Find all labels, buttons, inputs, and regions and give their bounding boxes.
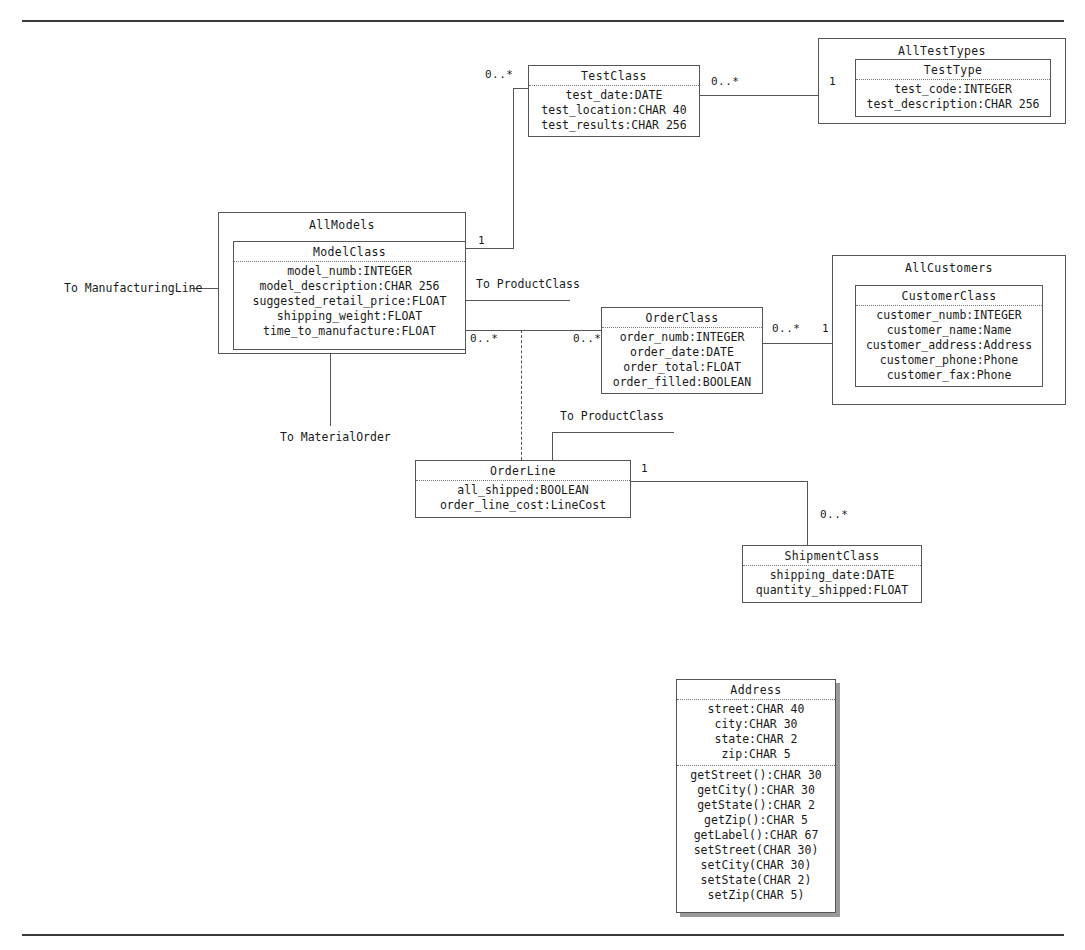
method: setState(CHAR 2) [683, 873, 829, 888]
attribute: order_line_cost:LineCost [422, 498, 624, 513]
multiplicity-orderclass-right: 0..* [772, 322, 801, 335]
attribute: city:CHAR 30 [683, 717, 829, 732]
multiplicity-orderline-right: 1 [641, 462, 648, 475]
class-orderclass-name: OrderClass [602, 308, 762, 328]
attribute: test_location:CHAR 40 [535, 103, 693, 118]
attribute: shipping_weight:FLOAT [240, 309, 459, 324]
class-testclass-attributes: test_date:DATE test_location:CHAR 40 tes… [529, 86, 699, 136]
class-orderline-name: OrderLine [416, 461, 630, 481]
page-rule-top [22, 20, 1064, 22]
connector-to-productclass-bottom-v [552, 432, 553, 460]
class-testtype[interactable]: TestType test_code:INTEGER test_descript… [855, 59, 1051, 117]
class-address-name: Address [677, 680, 835, 700]
class-modelclass-attributes: model_numb:INTEGER model_description:CHA… [234, 262, 465, 342]
method: setStreet(CHAR 30) [683, 843, 829, 858]
method: setZip(CHAR 5) [683, 888, 829, 903]
class-address[interactable]: Address street:CHAR 40 city:CHAR 30 stat… [676, 679, 836, 913]
class-testtype-name: TestType [856, 60, 1050, 80]
multiplicity-allmodels-right-top: 1 [478, 234, 485, 247]
attribute: test_code:INTEGER [862, 82, 1044, 97]
note-to-productclass-bottom: To ProductClass [560, 409, 664, 423]
package-allmodels-label: AllModels [219, 213, 465, 232]
class-orderclass[interactable]: OrderClass order_numb:INTEGER order_date… [601, 307, 763, 394]
attribute: order_date:DATE [608, 345, 756, 360]
package-alltesttypes-label: AllTestTypes [819, 39, 1065, 58]
attribute: shipping_date:DATE [749, 568, 915, 583]
attribute: suggested_retail_price:FLOAT [240, 294, 459, 309]
attribute: model_numb:INTEGER [240, 264, 459, 279]
diagram-canvas: AllTestTypes AllModels AllCustomers Test… [0, 0, 1085, 950]
multiplicity-testclass-left: 0..* [485, 68, 514, 81]
connector-to-materialorder [330, 350, 331, 426]
note-to-manufacturingline: To ManufacturingLine [64, 281, 202, 295]
connector-orderline-shipmentclass-v [807, 481, 808, 545]
attribute: all_shipped:BOOLEAN [422, 483, 624, 498]
attribute: order_numb:INTEGER [608, 330, 756, 345]
attribute: test_results:CHAR 256 [535, 118, 693, 133]
connector-testclass-allmodels-h-top [513, 88, 529, 89]
multiplicity-shipmentclass-top: 0..* [820, 508, 849, 521]
method: getLabel():CHAR 67 [683, 828, 829, 843]
attribute: quantity_shipped:FLOAT [749, 583, 915, 598]
connector-modelclass-orderclass [466, 330, 601, 331]
connector-orderline-shipmentclass-h [631, 481, 808, 482]
class-shipmentclass-attributes: shipping_date:DATE quantity_shipped:FLOA… [743, 566, 921, 601]
method: getState():CHAR 2 [683, 798, 829, 813]
class-shipmentclass[interactable]: ShipmentClass shipping_date:DATE quantit… [742, 545, 922, 603]
attribute: customer_fax:Phone [862, 368, 1036, 383]
class-testclass-name: TestClass [529, 66, 699, 86]
attribute: customer_numb:INTEGER [862, 308, 1036, 323]
class-orderline-attributes: all_shipped:BOOLEAN order_line_cost:Line… [416, 481, 630, 516]
connector-to-productclass-top [466, 300, 570, 301]
attribute: order_total:FLOAT [608, 360, 756, 375]
attribute: customer_name:Name [862, 323, 1036, 338]
multiplicity-testtype-left: 1 [829, 75, 836, 88]
class-testtype-attributes: test_code:INTEGER test_description:CHAR … [856, 80, 1050, 115]
class-customerclass[interactable]: CustomerClass customer_numb:INTEGER cust… [855, 285, 1043, 387]
note-to-productclass-top: To ProductClass [476, 277, 580, 291]
class-address-methods: getStreet():CHAR 30 getCity():CHAR 30 ge… [677, 765, 835, 906]
attribute: customer_address:Address [862, 338, 1036, 353]
package-allcustomers-label: AllCustomers [833, 256, 1065, 275]
connector-orderline-association-dashed [521, 330, 522, 460]
class-testclass[interactable]: TestClass test_date:DATE test_location:C… [528, 65, 700, 137]
attribute: state:CHAR 2 [683, 732, 829, 747]
multiplicity-orderclass-left: 0..* [573, 332, 602, 345]
attribute: test_date:DATE [535, 88, 693, 103]
attribute: time_to_manufacture:FLOAT [240, 324, 459, 339]
attribute: zip:CHAR 5 [683, 747, 829, 762]
multiplicity-customerclass-left: 1 [822, 322, 829, 335]
attribute: test_description:CHAR 256 [862, 97, 1044, 112]
method: getZip():CHAR 5 [683, 813, 829, 828]
class-address-attributes: street:CHAR 40 city:CHAR 30 state:CHAR 2… [677, 700, 835, 765]
class-customerclass-name: CustomerClass [856, 286, 1042, 306]
method: setCity(CHAR 30) [683, 858, 829, 873]
connector-to-productclass-bottom-h [552, 432, 674, 433]
class-shipmentclass-name: ShipmentClass [743, 546, 921, 566]
attribute: street:CHAR 40 [683, 702, 829, 717]
page-rule-bottom [22, 934, 1064, 936]
connector-testclass-allmodels-h-bottom [466, 248, 514, 249]
attribute: order_filled:BOOLEAN [608, 375, 756, 390]
class-orderclass-attributes: order_numb:INTEGER order_date:DATE order… [602, 328, 762, 393]
class-modelclass[interactable]: ModelClass model_numb:INTEGER model_desc… [233, 241, 466, 350]
attribute: customer_phone:Phone [862, 353, 1036, 368]
method: getCity():CHAR 30 [683, 783, 829, 798]
method: getStreet():CHAR 30 [683, 768, 829, 783]
multiplicity-modelclass-right-bottom: 0..* [470, 332, 499, 345]
class-orderline[interactable]: OrderLine all_shipped:BOOLEAN order_line… [415, 460, 631, 518]
class-customerclass-attributes: customer_numb:INTEGER customer_name:Name… [856, 306, 1042, 386]
attribute: model_description:CHAR 256 [240, 279, 459, 294]
note-to-materialorder: To MaterialOrder [280, 430, 391, 444]
multiplicity-testclass-right: 0..* [711, 75, 740, 88]
connector-testclass-allmodels-v [513, 88, 514, 249]
class-modelclass-name: ModelClass [234, 242, 465, 262]
